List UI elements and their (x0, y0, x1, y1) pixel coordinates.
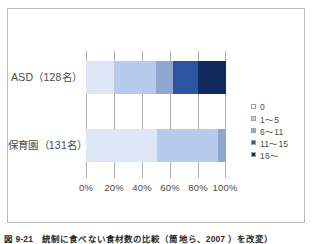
legend-item-11-15[interactable]: 11〜15 (251, 137, 307, 148)
bar-hoikuen (86, 129, 226, 162)
chart-panel: ASD（128名） 保育園（131名） 0% 20% 40% 60% 80% (7, 8, 305, 223)
bar-segment-hoikuen-0[interactable] (86, 129, 157, 162)
xtick-label-60: 60% (160, 182, 180, 193)
bar-segment-hoikuen-6-11[interactable] (218, 129, 226, 162)
xtick-label-80: 80% (188, 182, 208, 193)
legend-label-16: 16〜 (260, 149, 279, 161)
legend: 0 1〜5 6〜11 11〜15 16〜 (251, 101, 307, 161)
xtick-label-0: 0% (79, 182, 93, 193)
legend-item-16[interactable]: 16〜 (251, 149, 307, 160)
xtick-label-40: 40% (132, 182, 152, 193)
legend-swatch-icon-16 (251, 152, 256, 157)
bar-segment-asd-1-5[interactable] (114, 61, 156, 94)
legend-label-6-11: 6〜11 (260, 125, 283, 137)
bar-segment-asd-11-15[interactable] (173, 61, 198, 94)
legend-label-1-5: 1〜5 (260, 113, 279, 125)
category-label-hoikuen: 保育園（131名） (8, 137, 82, 152)
figure-root: ASD（128名） 保育園（131名） 0% 20% 40% 60% 80% (0, 0, 314, 244)
bar-segment-asd-0[interactable] (86, 61, 114, 94)
bar-asd (86, 61, 226, 94)
xtick-label-100: 100% (212, 182, 237, 193)
bar-segment-asd-6-11[interactable] (156, 61, 173, 94)
category-label-asd: ASD（128名） (8, 69, 82, 84)
legend-item-1-5[interactable]: 1〜5 (251, 113, 307, 124)
figure-caption: 図 9-21 統制に食べない食材数の比較（筒地ら、2007 ）を改変） (4, 232, 314, 244)
legend-item-0[interactable]: 0 (251, 101, 307, 112)
bar-segment-hoikuen-1-5[interactable] (157, 129, 217, 162)
legend-swatch-icon-0 (251, 104, 256, 109)
legend-label-11-15: 11〜15 (260, 137, 288, 149)
legend-label-0: 0 (260, 102, 265, 112)
bar-segment-asd-16[interactable] (198, 61, 226, 94)
legend-item-6-11[interactable]: 6〜11 (251, 125, 307, 136)
xtick-label-20: 20% (104, 182, 124, 193)
legend-swatch-icon-1-5 (251, 116, 256, 121)
legend-swatch-icon-11-15 (251, 140, 256, 145)
plot-area: ASD（128名） 保育園（131名） 0% 20% 40% 60% 80% (86, 51, 226, 178)
legend-swatch-icon-6-11 (251, 128, 256, 133)
